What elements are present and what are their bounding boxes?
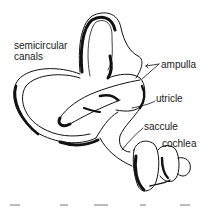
label-saccule: saccule xyxy=(144,122,178,132)
saccule-pointer xyxy=(122,128,143,150)
label-semicircular: semicircular xyxy=(14,41,67,51)
label-canals: canals xyxy=(14,52,43,62)
label-utricle: utricle xyxy=(156,94,183,104)
lateral-canal xyxy=(14,69,98,145)
caption-artifacts xyxy=(10,204,190,206)
label-cochlea: cochlea xyxy=(162,139,196,149)
labyrinth-illustration xyxy=(0,0,211,210)
inner-ear-diagram: semicircular canals ampulla utricle sacc… xyxy=(0,0,211,210)
posterior-canal xyxy=(59,80,140,126)
superior-canal xyxy=(79,13,142,78)
saccule-body xyxy=(100,108,140,166)
ampulla-pointer-2 xyxy=(142,64,159,79)
label-ampulla: ampulla xyxy=(161,60,196,70)
